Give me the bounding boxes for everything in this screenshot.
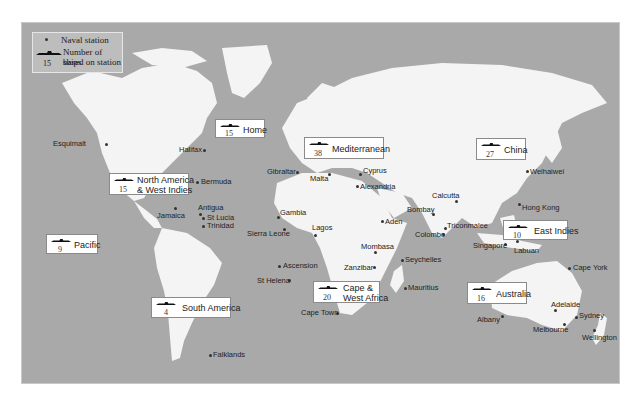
station-label-labuan: Labuan	[514, 246, 539, 255]
station-dot-icon	[518, 203, 521, 206]
station-label-bermuda: Bermuda	[201, 177, 231, 186]
station-dot-icon	[209, 354, 212, 357]
fleet-name: South America	[182, 303, 241, 313]
fleet-box-australia: 16 Australia	[467, 282, 527, 304]
fleet-box-home: 15 Home	[215, 119, 265, 138]
warship-icon	[36, 50, 62, 56]
warship-icon	[318, 285, 338, 290]
fleet-box-mediterranean: 38 Mediterranean	[304, 137, 384, 159]
station-dot-icon	[203, 149, 206, 152]
station-label-weihaiwei: Weihaiwei	[530, 167, 564, 176]
world-map: Naval station 15 Number of ships based o…	[21, 22, 620, 384]
station-dot-icon	[568, 267, 571, 270]
station-label-cape-york: Cape York	[573, 263, 608, 272]
station-label-esquimalt: Esquimalt	[53, 139, 86, 148]
warship-icon	[156, 301, 176, 306]
fleet-box-cape-west-africa: 20 Cape & West Africa	[313, 281, 380, 303]
warship-icon	[481, 142, 501, 147]
station-label-halifax: Halifax	[179, 145, 202, 154]
station-dot-icon	[575, 316, 578, 319]
warship-icon	[309, 141, 329, 146]
fleet-count: 10	[513, 231, 521, 240]
warship-icon	[51, 238, 71, 243]
station-dot-icon	[328, 173, 331, 176]
warship-icon	[220, 123, 240, 128]
fleet-count: 4	[164, 308, 168, 317]
fleet-name-line1: Cape &	[343, 283, 373, 293]
station-label-colombo: Colombo	[415, 230, 445, 239]
station-label-trinidad: Trinidad	[207, 221, 234, 230]
station-dot-icon	[373, 266, 376, 269]
station-label-calcutta: Calcutta	[432, 191, 460, 200]
legend-station-label: Naval station	[61, 35, 109, 45]
legend-example-count: 15	[43, 59, 51, 69]
station-label-adelaide: Adelaide	[551, 300, 580, 309]
station-label-sydney: Sydney	[579, 311, 604, 320]
station-label-zanzibar: Zanzibar	[344, 263, 373, 272]
fleet-name: Pacific	[74, 240, 101, 250]
station-label-ascension: Ascension	[283, 261, 318, 270]
warship-icon	[472, 286, 492, 291]
station-dot-icon	[501, 315, 504, 318]
station-dot-icon	[374, 251, 377, 254]
fleet-count: 20	[323, 293, 331, 302]
station-dot-icon	[516, 240, 519, 243]
station-dot-icon	[381, 220, 384, 223]
station-dot-icon	[174, 207, 177, 210]
station-label-lagos: Lagos	[312, 223, 332, 232]
station-label-triconmalee: Triconmalee	[447, 221, 488, 230]
fleet-box-china: 27 China	[476, 138, 526, 160]
fleet-name: East Indies	[534, 226, 579, 236]
station-dot-icon	[593, 329, 596, 332]
station-label-antigua: Antigua	[198, 203, 223, 212]
station-dot-icon	[359, 173, 362, 176]
fleet-name: Home	[243, 125, 267, 135]
station-label-albany: Albany	[477, 315, 500, 324]
fleet-box-north-america: 15 North America & West Indies	[109, 173, 189, 195]
fleet-count: 16	[477, 294, 485, 303]
warship-icon	[114, 177, 134, 182]
fleet-name-line2: & West Indies	[137, 185, 192, 195]
station-label-st-helena: St Helena	[257, 276, 290, 285]
station-dot-icon	[202, 217, 205, 220]
fleet-name: Mediterranean	[332, 144, 390, 154]
station-dot-icon	[455, 200, 458, 203]
station-label-falklands: Falklands	[213, 350, 245, 359]
station-dot-icon	[196, 181, 199, 184]
fleet-count: 9	[58, 245, 62, 254]
station-label-cape-town: Cape Town	[301, 308, 338, 317]
fleet-box-south-america: 4 South America	[151, 297, 231, 318]
fleet-count: 38	[314, 149, 322, 158]
station-label-jamaica: Jamaica	[157, 211, 185, 220]
fleet-box-pacific: 9 Pacific	[46, 234, 98, 254]
station-label-hong-kong: Hong Kong	[522, 203, 560, 212]
station-label-mombasa: Mombasa	[361, 242, 394, 251]
station-dot-icon	[401, 259, 404, 262]
fleet-name-line1: North America	[137, 175, 194, 185]
station-dot-icon	[202, 225, 205, 228]
station-dot-icon	[105, 143, 108, 146]
station-label-wellington: Wellington	[582, 333, 617, 342]
station-label-aden: Aden	[385, 217, 403, 226]
station-dot-icon	[199, 213, 202, 216]
fleet-name: China	[504, 145, 528, 155]
legend-station-row: Naval station	[37, 35, 109, 45]
fleet-box-east-indies: 10 East Indies	[503, 220, 568, 240]
station-dot-icon	[296, 171, 299, 174]
fleet-count: 15	[119, 185, 127, 194]
map-legend: Naval station 15 Number of ships based o…	[32, 32, 123, 73]
station-dot-icon	[278, 265, 281, 268]
station-dot-icon	[526, 170, 529, 173]
fleet-count: 15	[225, 129, 233, 138]
warship-icon	[508, 224, 528, 229]
station-dot-icon	[45, 38, 48, 41]
station-label-gibraltar: Gibraltar	[267, 167, 296, 176]
station-label-alexandria: Alexandria	[360, 182, 395, 191]
station-dot-icon	[404, 287, 407, 290]
station-dot-icon	[314, 234, 317, 237]
legend-ships-label-2: based on station	[63, 57, 121, 67]
fleet-name-line2: West Africa	[343, 293, 388, 303]
station-label-singapore: Singapore	[473, 241, 507, 250]
station-dot-icon	[554, 309, 557, 312]
station-label-seychelles: Seychelles	[405, 255, 441, 264]
